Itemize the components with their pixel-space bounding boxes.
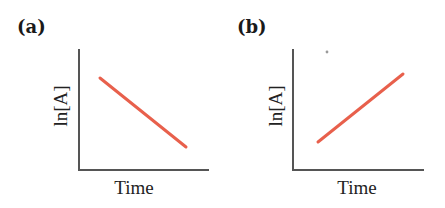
panel-label-b: (b) (237, 16, 267, 37)
y-axis-label-a: ln[A] (50, 85, 71, 126)
data-line-b (318, 74, 403, 142)
panel-b: (b) ln[A] Time (237, 16, 424, 198)
x-axis-label-a: Time (114, 177, 153, 198)
data-line-a (100, 78, 186, 147)
x-axis-label-b: Time (337, 177, 376, 198)
figure: (a) ln[A] Time (b) ln[A] Time (0, 0, 445, 208)
panel-label-a: (a) (17, 16, 46, 37)
panel-a: (a) ln[A] Time (17, 16, 209, 198)
stray-dot (326, 51, 329, 54)
y-axis-label-b: ln[A] (265, 85, 286, 126)
